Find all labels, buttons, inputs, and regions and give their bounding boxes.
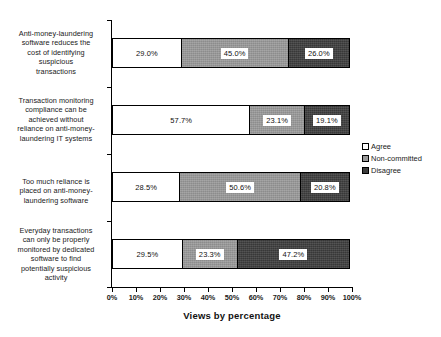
bar-segment-non-committed[interactable]: 23.1% [249, 105, 304, 135]
category-label-line: placed on anti-money- [4, 186, 108, 195]
segment-value-label: 47.2% [279, 249, 307, 260]
category-label-line: Transaction monitoring [4, 96, 108, 105]
category-label-line: reliance on anti-money- [4, 124, 108, 133]
category-label-line: software to find [4, 254, 108, 263]
segment-value-label: 29.5% [137, 250, 159, 259]
legend-label-non-committed: Non-committed [371, 154, 422, 163]
category-label-line: cost of identifying [4, 48, 108, 57]
bar-segment-disagree[interactable]: 20.8% [300, 172, 350, 202]
legend-label-agree: Agree [371, 142, 391, 151]
bar-segment-disagree[interactable]: 26.0% [288, 38, 350, 68]
category-label-line: activity [4, 273, 108, 282]
segment-value-label: 20.8% [311, 182, 339, 193]
segment-value-label: 50.6% [226, 182, 254, 193]
category-label-line: Too much reliance is [4, 177, 108, 186]
segment-value-label: 28.5% [135, 183, 157, 192]
bar-row: 57.7% 23.1% 19.1% [112, 105, 352, 135]
segment-value-label: 19.1% [313, 115, 341, 126]
bar-segment-non-committed[interactable]: 45.0% [181, 38, 289, 68]
bar-segment-agree[interactable]: 29.0% [112, 38, 182, 68]
x-axis-tick [256, 288, 257, 292]
segment-value-label: 57.7% [170, 116, 192, 125]
x-axis-tick [136, 288, 137, 292]
category-label-line: laundering software [4, 196, 108, 205]
stacked-bar-chart: Anti-money-laundering software reduces t… [0, 0, 441, 337]
legend-item-disagree[interactable]: Disagree [362, 165, 438, 176]
segment-value-label: 45.0% [221, 48, 249, 59]
x-axis-title: Views by percentage [112, 310, 352, 321]
category-label-3: Everyday transactions can only be proper… [4, 226, 108, 282]
category-label-line: software reduces the [4, 38, 108, 47]
legend-swatch-non-committed-icon [362, 155, 369, 162]
x-axis-tick [208, 288, 209, 292]
category-label-2: Too much reliance is placed on anti-mone… [4, 177, 108, 205]
chart-legend: Agree Non-committed Disagree [362, 141, 438, 177]
category-label-line: Anti-money-laundering [4, 29, 108, 38]
legend-label-disagree: Disagree [371, 166, 401, 175]
bar-segment-disagree[interactable]: 19.1% [304, 105, 350, 135]
x-axis-tick [280, 288, 281, 292]
bar-segment-agree[interactable]: 57.7% [112, 105, 250, 135]
legend-swatch-disagree-icon [362, 167, 369, 174]
bar-row: 29.5% 23.3% 47.2% [112, 239, 352, 269]
category-label-line: achieved without [4, 115, 108, 124]
bar-segment-disagree[interactable]: 47.2% [237, 239, 350, 269]
segment-value-label: 29.0% [136, 49, 158, 58]
category-label-line: can only be properly [4, 235, 108, 244]
x-axis-tick [160, 288, 161, 292]
plot-area: 29.0% 45.0% 26.0% 57.7% 23.1% 19.1% 28.5… [112, 20, 352, 287]
bar-segment-non-committed[interactable]: 23.3% [182, 239, 238, 269]
bar-segment-agree[interactable]: 28.5% [112, 172, 180, 202]
x-axis-tick [112, 288, 113, 292]
category-label-line: potentially suspicious [4, 264, 108, 273]
bar-row: 28.5% 50.6% 20.8% [112, 172, 352, 202]
category-label-line: laundering IT systems [4, 134, 108, 143]
category-label-line: monitored by dedicated [4, 245, 108, 254]
legend-item-agree[interactable]: Agree [362, 141, 438, 152]
legend-swatch-agree-icon [362, 143, 369, 150]
category-label-line: transactions [4, 67, 108, 76]
category-label-line: Everyday transactions [4, 226, 108, 235]
x-axis-tick [232, 288, 233, 292]
segment-value-label: 26.0% [305, 48, 333, 59]
category-axis-labels: Anti-money-laundering software reduces t… [0, 0, 108, 300]
segment-value-label: 23.1% [263, 115, 291, 126]
bar-segment-agree[interactable]: 29.5% [112, 239, 183, 269]
x-axis-tick [352, 288, 353, 292]
category-label-line: compliance can be [4, 105, 108, 114]
category-label-1: Transaction monitoring compliance can be… [4, 96, 108, 143]
x-axis-tick [304, 288, 305, 292]
bar-segment-non-committed[interactable]: 50.6% [179, 172, 300, 202]
legend-item-non-committed[interactable]: Non-committed [362, 153, 438, 164]
x-tick-label-100: 100% [337, 293, 367, 302]
x-axis-tick [184, 288, 185, 292]
x-axis-tick [328, 288, 329, 292]
category-label-line: suspicious [4, 57, 108, 66]
bar-row: 29.0% 45.0% 26.0% [112, 38, 352, 68]
category-label-0: Anti-money-laundering software reduces t… [4, 29, 108, 76]
segment-value-label: 23.3% [196, 249, 224, 260]
